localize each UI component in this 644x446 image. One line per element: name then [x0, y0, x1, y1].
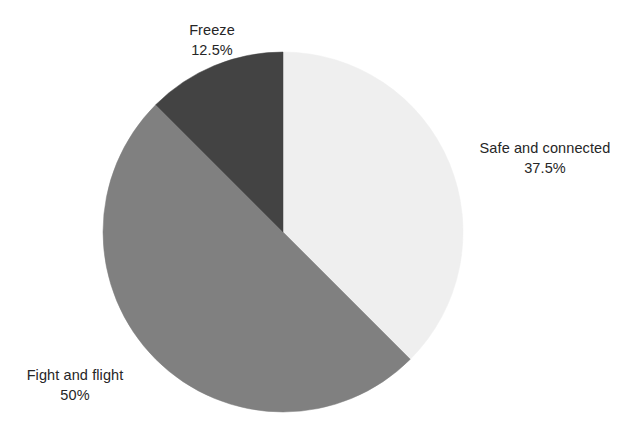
pie-label-freeze-name: Freeze	[189, 20, 235, 40]
pie-slice-group	[103, 52, 463, 412]
pie-label-freeze: Freeze 12.5%	[189, 20, 235, 60]
pie-label-safe-and-connected-name: Safe and connected	[480, 138, 611, 158]
pie-label-fight-and-flight-name: Fight and flight	[27, 365, 124, 385]
pie-chart: Safe and connected 37.5% Fight and fligh…	[0, 0, 644, 446]
pie-label-freeze-value: 12.5%	[189, 40, 235, 60]
pie-label-safe-and-connected: Safe and connected 37.5%	[480, 138, 611, 178]
pie-label-safe-and-connected-value: 37.5%	[480, 158, 611, 178]
pie-label-fight-and-flight-value: 50%	[27, 385, 124, 405]
pie-label-fight-and-flight: Fight and flight 50%	[27, 365, 124, 405]
